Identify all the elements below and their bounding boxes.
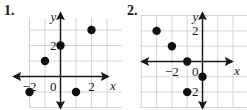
plotted-point (25, 88, 33, 96)
x-axis-label: x (233, 63, 240, 78)
coordinate-plane-1: xy−2220 (14, 9, 122, 108)
tick-label-x: 2 (88, 79, 95, 94)
plotted-point (72, 88, 80, 96)
plotted-point (198, 73, 206, 81)
x-axis-label: x (109, 78, 116, 93)
tick-label-y: 2 (192, 23, 199, 38)
y-axis-label: y (191, 9, 199, 24)
plotted-point (183, 57, 191, 65)
tick-label-y: 2 (50, 38, 57, 53)
plotted-point (41, 57, 49, 65)
plotted-point (56, 41, 64, 49)
coordinate-plots: xy−2220 xy−22−20 (0, 0, 247, 110)
plotted-point (152, 27, 160, 35)
plotted-point (183, 88, 191, 96)
tick-label-origin: 0 (50, 79, 57, 94)
tick-label-x: −2 (165, 64, 179, 79)
coordinate-plane-2: xy−22−20 (140, 9, 247, 108)
plotted-point (87, 26, 95, 34)
tick-label-origin: 0 (192, 64, 199, 79)
plotted-point (168, 42, 176, 50)
y-axis-label: y (49, 9, 57, 24)
